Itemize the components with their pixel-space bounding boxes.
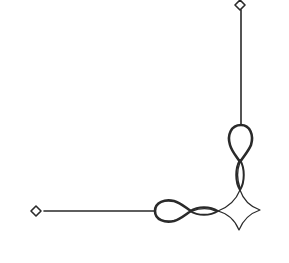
horizontal-loop <box>155 200 191 221</box>
vertical-twist-inner <box>238 162 240 188</box>
top-diamond-icon <box>235 0 245 10</box>
corner-diamond-icon <box>218 190 260 230</box>
left-diamond-icon <box>31 206 41 216</box>
vertical-loop <box>229 125 252 162</box>
corner-ornament <box>0 0 289 263</box>
ornament-graphic <box>0 0 289 263</box>
